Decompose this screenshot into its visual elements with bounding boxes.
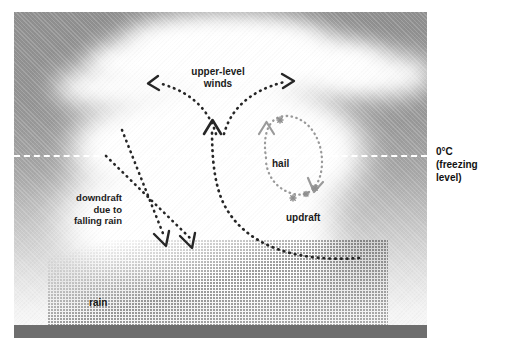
arrow-overlay: [14, 12, 427, 338]
rain-label: rain: [89, 297, 107, 309]
downdraft-line3: falling rain: [14, 215, 122, 227]
downdraft-line2: due to: [14, 204, 122, 216]
hail-label: hail: [272, 158, 289, 170]
freezing-level-label: 0°C (freezing level): [436, 145, 478, 184]
freezing-level-line3: level): [436, 171, 478, 184]
freezing-level-line1: 0°C: [436, 145, 478, 158]
figure-canvas: upper-level winds hail updraft downdraft…: [0, 0, 512, 353]
freezing-level-line2: (freezing: [436, 158, 478, 171]
hail-circulation-loop: [259, 116, 323, 195]
upper-level-winds-line1: upper-level: [168, 66, 268, 78]
downdraft-label: downdraft due to falling rain: [14, 192, 122, 227]
downdraft-line1: downdraft: [14, 192, 122, 204]
downdraft-arrow-left: [122, 130, 169, 246]
upper-level-winds-line2: winds: [168, 78, 268, 90]
updraft-label: updraft: [286, 212, 320, 224]
storm-diagram-panel: upper-level winds hail updraft downdraft…: [14, 12, 427, 338]
upper-level-winds-label: upper-level winds: [168, 66, 268, 90]
